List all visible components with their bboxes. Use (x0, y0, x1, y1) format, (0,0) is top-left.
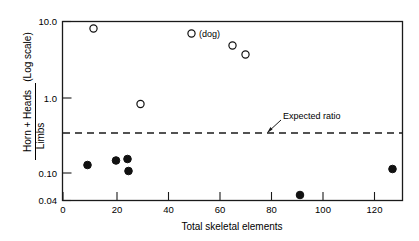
y-axis-title-group: Horn + Heads Limbs (Log scale) (22, 32, 46, 160)
y-tick-label-2: 0.10 (39, 168, 58, 179)
y-tick-label-1: 1.0 (44, 93, 57, 104)
data-point-open (242, 51, 249, 58)
data-point-open (137, 100, 144, 107)
y-axis-scale-note: (Log scale) (22, 32, 33, 81)
x-tick-label-4: 80 (266, 204, 277, 215)
data-point-filled (389, 165, 397, 173)
x-tick-label-3: 60 (215, 204, 226, 215)
scatter-plot-figure: 10.0 1.0 0.10 0.04 0 20 40 60 80 100 120… (0, 0, 419, 241)
open-circle-series (90, 25, 249, 108)
expected-ratio-label: Expected ratio (283, 111, 341, 121)
data-point-filled (84, 161, 92, 169)
x-tick-label-6: 120 (367, 204, 383, 215)
data-point-open (229, 42, 236, 49)
y-axis-denominator: Limbs (35, 123, 46, 150)
data-point-filled (112, 157, 120, 165)
x-axis-ticks (63, 192, 375, 201)
x-tick-label-2: 40 (163, 204, 174, 215)
x-tick-label-1: 20 (112, 204, 123, 215)
y-axis-numerator: Horn + Heads (22, 90, 33, 152)
data-point-open (90, 25, 97, 32)
y-axis-ticks (63, 22, 72, 201)
x-tick-label-5: 100 (315, 204, 331, 215)
filled-circle-series (84, 155, 397, 199)
expected-ratio-arrowhead (267, 127, 273, 133)
plot-canvas: 10.0 1.0 0.10 0.04 0 20 40 60 80 100 120… (0, 0, 419, 241)
data-point-filled (124, 155, 132, 163)
x-axis-title: Total skeletal elements (181, 221, 282, 232)
y-tick-label-0: 10.0 (39, 16, 58, 27)
data-point-open (188, 30, 195, 37)
x-tick-label-0: 0 (60, 204, 65, 215)
y-tick-label-3: 0.04 (39, 195, 58, 206)
dog-label: (dog) (199, 29, 220, 39)
data-point-filled (125, 167, 133, 175)
data-point-filled (296, 191, 304, 199)
